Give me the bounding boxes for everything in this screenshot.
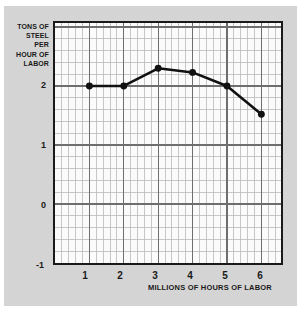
plot-area [53,21,283,265]
x-axis-tick-label: 4 [180,270,200,281]
x-axis-tick-label: 3 [145,270,165,281]
x-axis-tick-label: 2 [110,270,130,281]
y-axis-label-line-5: LABOR [2,59,49,68]
series-line [89,68,261,114]
x-axis-tick-label: 1 [75,270,95,281]
x-axis-tick-label: 5 [215,270,235,281]
y-axis-tick-label: 0 [16,200,46,210]
y-axis-label-line-3: PER [2,40,49,49]
y-axis-label-line-2: STEEL [2,31,49,40]
y-axis-tick-label: 1 [16,140,46,150]
y-axis-label-line-1: TONS OF [2,22,49,31]
x-axis-label: MILLIONS OF HOURS OF LABOR [148,283,272,292]
x-axis-tick-label: 6 [250,270,270,281]
y-axis-tick-label: 2 [16,80,46,90]
y-axis-tick-label: -1 [14,260,44,270]
y-axis-label: TONS OF STEEL PER HOUR OF LABOR [2,22,49,68]
y-axis-label-line-4: HOUR OF [2,50,49,59]
series-markers [86,65,265,118]
data-series [55,23,281,263]
chart-figure: TONS OF STEEL PER HOUR OF LABOR 2 1 0 -1… [0,0,301,314]
